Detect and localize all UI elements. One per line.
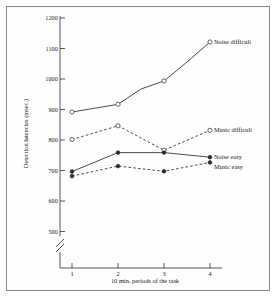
y-tick-label-600: 600 <box>36 197 58 204</box>
series-label-music-easy: Music easy <box>214 163 243 170</box>
y-tick-label-500: 500 <box>36 228 58 235</box>
series-label-music-difficult: Music difficult <box>214 126 252 133</box>
y-axis-label: Detection latencies (msec.) <box>22 79 29 189</box>
x-tick-label-3: 3 <box>157 270 171 277</box>
series-music-difficult <box>70 124 212 153</box>
series-noise-difficult <box>70 40 212 114</box>
x-axis-label: 10 min. periods of the task <box>60 277 230 284</box>
y-tick-label-900: 900 <box>36 106 58 113</box>
y-tick-label-1200: 1200 <box>36 14 58 21</box>
y-tick-label-1100: 1100 <box>36 45 58 52</box>
series-label-noise-difficult: Noise difficult <box>214 38 251 45</box>
x-tick-label-2: 2 <box>111 270 125 277</box>
axis-break-icon <box>56 239 64 252</box>
x-tick-marks <box>72 263 210 268</box>
y-tick-marks <box>60 18 65 232</box>
series-noise-easy <box>70 151 212 174</box>
x-tick-label-4: 4 <box>203 270 217 277</box>
y-tick-label-1000: 1000 <box>36 75 58 82</box>
x-tick-label-1: 1 <box>65 270 79 277</box>
y-tick-label-700: 700 <box>36 167 58 174</box>
series-label-noise-easy: Noise easy <box>214 153 242 160</box>
y-tick-label-800: 800 <box>36 136 58 143</box>
